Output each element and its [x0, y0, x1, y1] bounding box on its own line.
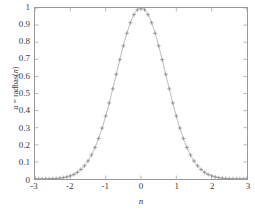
y-tick-label: 0.1 [0, 158, 30, 167]
x-tick-label: 3 [233, 182, 255, 191]
y-axis-label-n: n [11, 69, 20, 73]
x-tick-label: -2 [55, 182, 85, 191]
plot-area [34, 7, 248, 180]
y-axis-label-eq: = radbas( [11, 73, 20, 105]
x-tick-label: -1 [90, 182, 120, 191]
y-axis-label-a: a [11, 105, 20, 109]
x-tick-label: 0 [126, 182, 156, 191]
plus-markers [35, 8, 247, 179]
x-tick-label: 2 [197, 182, 227, 191]
data-layer [35, 8, 247, 179]
y-axis-label: a = radbas(n) [12, 28, 20, 148]
x-tick-label: -3 [19, 182, 49, 191]
gaussian-curve [35, 8, 247, 179]
x-axis-label: n [34, 197, 248, 206]
radbas-figure: 00.10.20.30.40.50.60.70.80.91 -3-2-10123… [0, 0, 255, 218]
y-axis-label-close: ) [11, 67, 20, 70]
y-tick-label: 1 [0, 3, 30, 12]
x-tick-label: 1 [162, 182, 192, 191]
axis-ticks [35, 8, 247, 179]
